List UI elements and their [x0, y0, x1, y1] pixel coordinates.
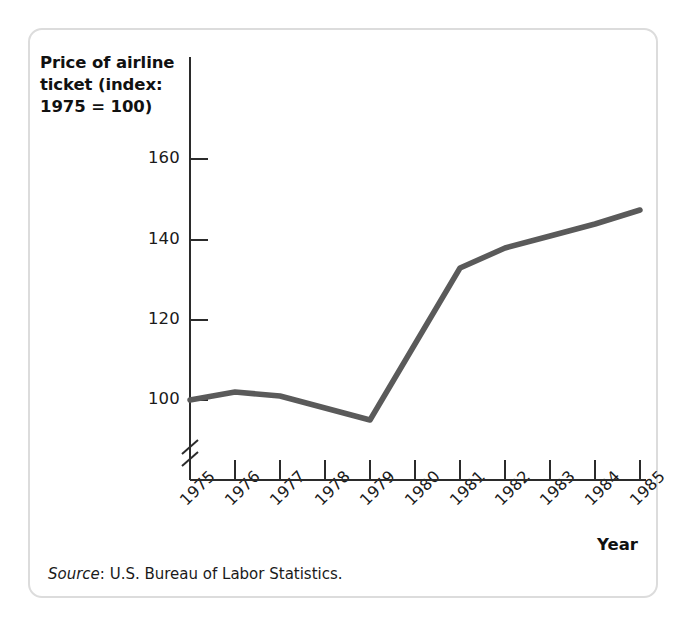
chart-svg-canvas — [30, 30, 660, 600]
chart-figure-frame: Price of airline ticket (index: 1975 = 1… — [28, 28, 658, 598]
chart-plot-area: Price of airline ticket (index: 1975 = 1… — [30, 30, 660, 600]
source-text: : U.S. Bureau of Labor Statistics. — [100, 565, 343, 583]
y-axis-ticks — [190, 159, 208, 400]
x-axis-ticks — [190, 460, 640, 480]
x-axis-name: Year — [597, 535, 638, 554]
source-note: Source: U.S. Bureau of Labor Statistics. — [48, 565, 343, 583]
price-index-line-series — [190, 210, 640, 420]
source-label: Source — [48, 565, 100, 583]
